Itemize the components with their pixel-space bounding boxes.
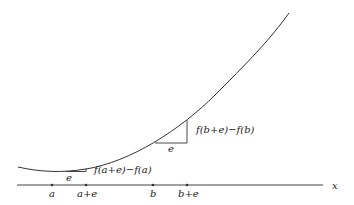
tick-b-plus-e	[186, 184, 189, 187]
tick-label-b-plus-e: b+e	[178, 188, 199, 199]
tick-label-a: a	[49, 188, 55, 199]
increment-a-label: f(a+e)−f(a)	[93, 164, 152, 175]
increment-b-label: f(b+e)−f(b)	[195, 124, 255, 135]
tick-a-plus-e	[85, 184, 88, 187]
x-axis-label: x	[332, 180, 338, 191]
increment-e-label-b: e	[168, 143, 174, 154]
tick-a	[51, 184, 54, 187]
increment-e-label-a: e	[66, 172, 72, 183]
tick-b	[152, 184, 155, 187]
convexity-diagram: x a a+e b b+e e f(a+e)−f(a) e f(b+e)−f(b…	[0, 0, 354, 205]
tick-label-a-plus-e: a+e	[77, 188, 97, 199]
function-curve	[18, 13, 289, 171]
tick-label-b: b	[150, 188, 156, 199]
